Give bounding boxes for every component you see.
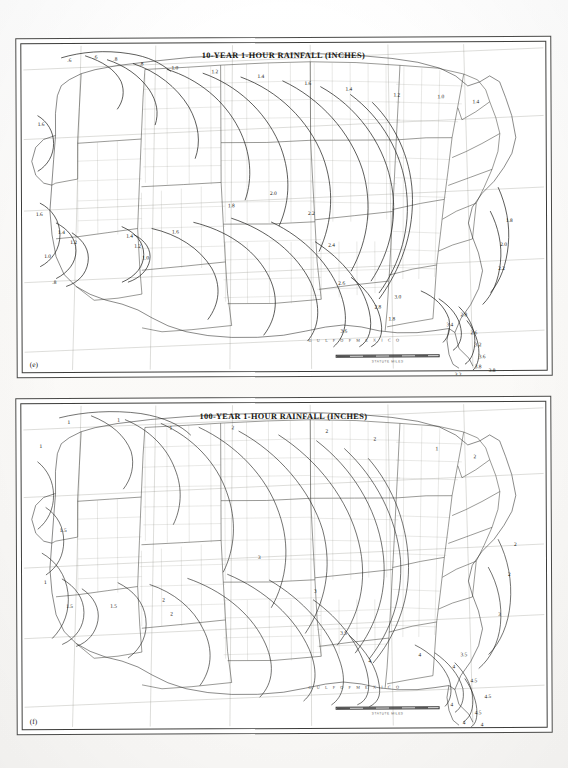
gulf-of-mexico-label-f: G U L F O F M E X I C O: [309, 684, 401, 689]
contour-value-label: 4.5: [475, 710, 482, 715]
state-boundaries-f: [51, 419, 500, 689]
contour-value-label: 1.2: [134, 244, 141, 249]
figure-panel-e: 10-YEAR 1-HOUR RAINFALL (INCHES) (e) G U…: [15, 36, 552, 378]
contour-value-layer-e: .6.6.8.81.01.21.41.61.41.21.01.41.61.61.…: [16, 37, 550, 39]
contour-value-label: 2.0: [500, 242, 507, 247]
isopluvial-contours-f: [37, 410, 511, 729]
map-area-f: [21, 402, 546, 729]
contour-value-label: 2: [162, 598, 165, 603]
contour-value-label: 4.5: [485, 694, 492, 699]
contour-value-label: 3.5: [460, 652, 467, 657]
contour-value-label: 2.8: [374, 305, 381, 310]
contour-value-label: 2: [474, 454, 477, 459]
contour-value-label: .8: [139, 62, 143, 67]
contour-value-label: 2: [231, 425, 234, 430]
contour-value-label: 1.6: [36, 212, 43, 217]
contour-value-label: 1: [39, 444, 42, 449]
contour-value-label: 1: [44, 580, 47, 585]
contour-value-label: 2.0: [270, 191, 277, 196]
contour-value-label: 2: [373, 437, 376, 442]
contour-value-label: 1.4: [58, 230, 65, 235]
contour-value-label: 1.4: [126, 234, 133, 239]
contour-value-label: 1.4: [257, 74, 264, 79]
contour-value-label: 1.4: [473, 99, 480, 104]
contour-value-label: 2: [170, 611, 173, 616]
map-area-e: [21, 42, 546, 372]
contour-value-label: 2.4: [328, 243, 335, 248]
contour-value-label: 2.2: [498, 266, 505, 271]
contour-value-label: .6: [67, 58, 71, 63]
contour-value-label: 3.2: [455, 372, 462, 377]
contour-value-label: 1.8: [228, 203, 235, 208]
coastline-e: [31, 53, 517, 370]
contour-value-label: 1.5: [66, 604, 73, 609]
contour-value-label: 1.0: [171, 65, 178, 70]
contour-value-label: 4: [463, 720, 466, 725]
contour-value-label: 4: [368, 659, 371, 664]
scale-bar-e: [336, 354, 440, 358]
contour-value-label: 1.2: [211, 69, 218, 74]
isopluvial-map-e: [21, 42, 546, 372]
contour-value-label: 2: [514, 542, 517, 547]
figure-title-f: 100-YEAR 1-HOUR RAINFALL (INCHES): [16, 412, 550, 422]
contour-value-label: 3.4: [447, 322, 454, 327]
contour-value-label: 2.6: [471, 330, 478, 335]
contour-value-label: 2.2: [308, 211, 315, 216]
state-boundaries-e: [51, 61, 500, 332]
contour-value-label: 3.0: [394, 294, 401, 299]
contour-value-label: 3.6: [479, 354, 486, 359]
contour-value-label: 1.0: [142, 256, 149, 261]
contour-value-label: 1.6: [304, 81, 311, 86]
contour-value-label: 1: [117, 418, 120, 423]
contour-value-label: 1.8: [506, 218, 513, 223]
contour-value-label: 1: [67, 420, 70, 425]
contour-value-label: 2: [325, 429, 328, 434]
contour-value-label: 3.2: [475, 342, 482, 347]
contour-value-label: 3: [498, 612, 501, 617]
contour-value-label: 4: [452, 664, 455, 669]
graticule-f: [23, 404, 544, 727]
gulf-of-mexico-label-e: G U L F O F M E X I C O: [309, 337, 401, 342]
contour-value-label: 3: [314, 589, 317, 594]
contour-value-label: 1: [169, 425, 172, 430]
contour-value-label: .6: [93, 55, 97, 60]
contour-value-label: 1.4: [345, 87, 352, 92]
contour-value-label: 1.2: [70, 240, 77, 245]
contour-value-label: 2: [508, 572, 511, 577]
contour-value-label: 3.5: [340, 631, 347, 636]
contour-value-label: 1.2: [394, 92, 401, 97]
contour-value-label: 3.6: [341, 329, 348, 334]
contour-value-label: 4: [481, 722, 484, 727]
contour-value-label: 1.6: [172, 229, 179, 234]
panel-label-f: (f): [30, 717, 38, 726]
isopluvial-map-f: [21, 402, 546, 729]
contour-value-label: 4: [418, 652, 421, 657]
contour-value-label: 4.5: [470, 678, 477, 683]
contour-value-label: 3.8: [475, 364, 482, 369]
contour-value-label: 1: [435, 446, 438, 451]
contour-value-label: .8: [113, 57, 117, 62]
panel-label-e: (e): [30, 360, 38, 369]
contour-value-label: 1.5: [60, 528, 67, 533]
contour-value-label: 1.6: [38, 122, 45, 127]
contour-value-label: 1.8: [388, 317, 395, 322]
contour-value-label: 3.8: [489, 368, 496, 373]
contour-value-label: 1.0: [44, 254, 51, 259]
contour-value-label: 4: [451, 702, 454, 707]
atlas-page: 10-YEAR 1-HOUR RAINFALL (INCHES) (e) G U…: [0, 0, 568, 768]
contour-value-label: 3: [258, 555, 261, 560]
contour-value-label: 1.5: [110, 604, 117, 609]
contour-value-layer-f: 1112221211.51.511.522333.54443.54.54.544…: [16, 397, 550, 399]
scale-caption-e: STATUTE MILES: [336, 359, 440, 363]
contour-value-label: 2.6: [338, 281, 345, 286]
coastline-f: [31, 412, 517, 727]
contour-value-label: 1.0: [438, 94, 445, 99]
scale-bar-f: [336, 706, 440, 710]
contour-value-label: 2.8: [460, 312, 467, 317]
figure-panel-f: 100-YEAR 1-HOUR RAINFALL (INCHES) (f) G …: [15, 396, 552, 735]
scale-caption-f: STATUTE MILES: [336, 711, 440, 715]
contour-value-label: .8: [52, 280, 56, 285]
county-boundaries-e: [77, 62, 465, 304]
